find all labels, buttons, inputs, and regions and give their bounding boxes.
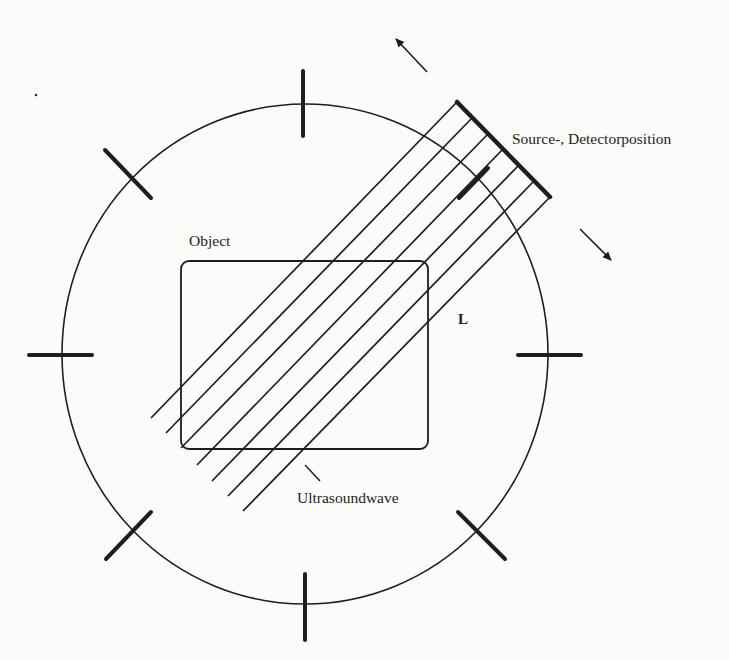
length-label: L: [458, 311, 468, 327]
tick-lower-left: [106, 512, 151, 559]
stray-dot: [35, 94, 38, 97]
tick-lower-right: [458, 512, 505, 559]
ultrasoundwave-leader-line: [305, 465, 320, 481]
tomography-diagram: Source-, Detectorposition Object L Ultra…: [0, 0, 729, 660]
tick-upper-left: [105, 150, 151, 198]
ultrasound-beam-line: [243, 197, 550, 511]
rotate-cw-arrow-icon: [580, 229, 611, 260]
ultrasound-beam-line: [197, 149, 503, 465]
source-detector-label: Source-, Detectorposition: [512, 130, 672, 147]
rotate-ccw-arrow-icon: [396, 39, 427, 72]
ultrasoundwave-label: Ultrasoundwave: [297, 489, 399, 506]
ultrasound-beam-line: [166, 118, 472, 433]
ultrasound-beam-line: [151, 102, 457, 418]
ultrasound-beam-line: [212, 165, 519, 481]
object-label: Object: [189, 232, 231, 249]
ultrasound-beam-line: [181, 134, 488, 448]
tick-upper-right: [459, 168, 488, 198]
detector-ticks: [29, 71, 581, 640]
